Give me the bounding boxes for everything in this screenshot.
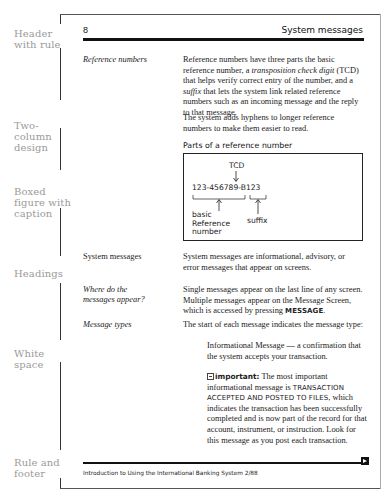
annotation-headings: Headings bbox=[14, 268, 74, 279]
page-bottom-border bbox=[60, 488, 380, 489]
page-top-border bbox=[60, 14, 380, 15]
hyphens-paragraph: The system adds hyphens to longer refere… bbox=[183, 113, 363, 134]
next-page-arrow-icon[interactable] bbox=[361, 457, 369, 465]
informational-message-paragraph: Informational Message — a confirmation t… bbox=[207, 341, 367, 362]
message-types-paragraph: The start of each message indicates the … bbox=[183, 320, 373, 331]
reference-numbers-paragraph: Reference numbers have three parts the b… bbox=[183, 55, 363, 119]
heading-message-types: Message types bbox=[83, 320, 132, 330]
figure-caption: Parts of a reference number bbox=[183, 141, 292, 150]
heading-reference-numbers: Reference numbers bbox=[83, 55, 147, 65]
annotation-rule-and-footer: Rule and footer bbox=[14, 457, 74, 479]
annotation-boxed-figure: Boxed figure with caption bbox=[14, 186, 74, 219]
annotation-header-with-rule: Header with rule bbox=[14, 28, 74, 50]
bracket-line bbox=[60, 208, 61, 256]
system-messages-paragraph: System messages are informational, advis… bbox=[183, 252, 363, 273]
header-rule bbox=[83, 38, 364, 41]
figure-box: TCD 123-456789-B123 basic Reference numb… bbox=[183, 153, 363, 241]
important-icon bbox=[207, 373, 214, 380]
section-title: System messages bbox=[281, 25, 363, 35]
footer-rule bbox=[83, 462, 363, 464]
annotation-white-space: White space bbox=[14, 348, 74, 370]
bracket-line bbox=[60, 478, 61, 488]
important-note: important: The most important informatio… bbox=[207, 372, 367, 446]
suffix-label: suffix bbox=[247, 217, 268, 226]
footer-text: Introduction to Using the International … bbox=[83, 470, 258, 476]
basic-label: basic Reference number bbox=[192, 211, 230, 237]
page-right-border bbox=[380, 14, 381, 489]
where-messages-appear-paragraph: Single messages appear on the last line … bbox=[183, 285, 363, 317]
heading-system-messages: System messages bbox=[83, 252, 141, 262]
bracket-line bbox=[60, 283, 61, 340]
bracket-line bbox=[60, 362, 61, 450]
heading-where-messages-appear: Where do the messages appear? bbox=[83, 285, 145, 305]
annotation-two-column-design: Two-column design bbox=[14, 120, 74, 153]
bracket-line bbox=[60, 128, 61, 170]
bracket-line bbox=[60, 14, 61, 24]
bracket-line bbox=[60, 48, 61, 100]
page-number: 8 bbox=[83, 25, 88, 35]
reference-number-example: 123-456789-B123 bbox=[192, 184, 260, 193]
